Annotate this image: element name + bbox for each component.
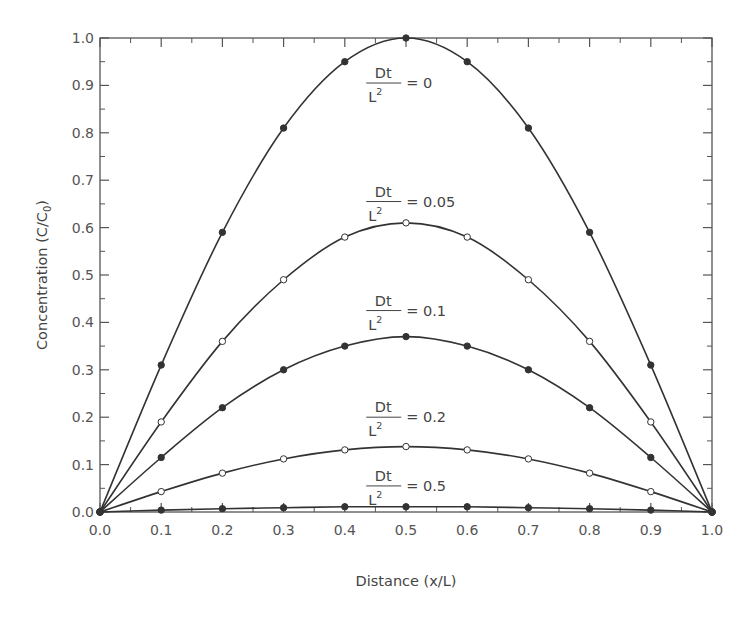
open-circle-marker	[280, 277, 286, 283]
filled-circle-marker	[342, 504, 348, 510]
x-tick-label: 0.3	[272, 522, 294, 538]
open-circle-marker	[342, 234, 348, 240]
filled-circle-marker	[525, 367, 531, 373]
y-tick-label: 0.6	[72, 220, 94, 236]
x-tick-label: 0.6	[456, 522, 478, 538]
equation-value: = 0	[406, 75, 432, 91]
filled-circle-marker	[280, 125, 286, 131]
curve-label-2: DtL2= 0.1	[366, 293, 446, 333]
filled-circle-marker	[342, 59, 348, 65]
y-tick-label: 0.7	[72, 172, 94, 188]
filled-circle-marker	[403, 333, 409, 339]
filled-circle-marker	[403, 504, 409, 510]
fraction-numerator: Dt	[375, 399, 392, 415]
fraction-denominator: L2	[368, 205, 382, 224]
filled-circle-marker	[403, 35, 409, 41]
y-tick-label: 0.8	[72, 125, 94, 141]
curve-label-1: DtL2= 0.05	[366, 184, 455, 224]
curve-label-3: DtL2= 0.2	[366, 399, 446, 439]
open-circle-marker	[219, 338, 225, 344]
equation-value: = 0.5	[406, 478, 446, 494]
filled-circle-marker	[219, 405, 225, 411]
fraction-numerator: Dt	[375, 65, 392, 81]
y-tick-label: 0.2	[72, 409, 94, 425]
filled-circle-marker	[525, 505, 531, 511]
fraction-numerator: Dt	[375, 293, 392, 309]
x-tick-label: 0.7	[517, 522, 539, 538]
series-line	[100, 223, 712, 512]
equation-value: = 0.05	[406, 194, 455, 210]
fraction-numerator: Dt	[375, 468, 392, 484]
y-tick-label: 0.3	[72, 362, 94, 378]
equation-value: = 0.2	[406, 409, 446, 425]
open-circle-marker	[464, 447, 470, 453]
fraction-denominator: L2	[368, 86, 382, 105]
open-circle-marker	[525, 277, 531, 283]
plot-frame	[100, 38, 712, 512]
series-line	[100, 38, 712, 512]
filled-circle-marker	[219, 505, 225, 511]
open-circle-marker	[648, 488, 654, 494]
series-layer	[97, 35, 715, 515]
open-circle-marker	[525, 456, 531, 462]
filled-circle-marker	[648, 454, 654, 460]
filled-circle-marker	[648, 362, 654, 368]
y-axis-title-main: Concentration (C/C	[34, 212, 50, 350]
fraction-denominator: L2	[368, 314, 382, 333]
x-tick-label: 0.5	[395, 522, 417, 538]
y-tick-label: 1.0	[72, 30, 94, 46]
open-circle-marker	[280, 456, 286, 462]
equation-value: = 0.1	[406, 303, 446, 319]
filled-circle-marker	[648, 507, 654, 513]
filled-circle-marker	[464, 504, 470, 510]
open-circle-marker	[586, 338, 592, 344]
filled-circle-marker	[342, 343, 348, 349]
fraction-denominator: L2	[368, 420, 382, 439]
open-circle-marker	[464, 234, 470, 240]
open-circle-marker	[219, 470, 225, 476]
y-tick-label: 0.9	[72, 77, 94, 93]
series-4	[97, 504, 715, 516]
fraction-numerator: Dt	[375, 184, 392, 200]
x-tick-label: 0.4	[334, 522, 356, 538]
x-tick-label: 0.0	[89, 522, 111, 538]
x-tick-label: 1.0	[701, 522, 723, 538]
filled-circle-marker	[586, 505, 592, 511]
x-tick-label: 0.8	[578, 522, 600, 538]
open-circle-marker	[342, 447, 348, 453]
y-axis-title-close: )	[34, 200, 50, 206]
y-tick-label: 0.5	[72, 267, 94, 283]
filled-circle-marker	[158, 362, 164, 368]
x-tick-label: 0.2	[211, 522, 233, 538]
filled-circle-marker	[525, 125, 531, 131]
filled-circle-marker	[280, 505, 286, 511]
plot-border	[100, 38, 712, 512]
open-circle-marker	[403, 220, 409, 226]
filled-circle-marker	[464, 59, 470, 65]
x-tick-label: 0.1	[150, 522, 172, 538]
filled-circle-marker	[586, 405, 592, 411]
concentration-profile-chart: 0.00.10.20.30.40.50.60.70.80.91.0 0.00.1…	[0, 0, 753, 636]
curve-label-0: DtL2= 0	[366, 65, 432, 105]
x-axis-ticks: 0.00.10.20.30.40.50.60.70.80.91.0	[89, 38, 723, 538]
series-1	[97, 220, 715, 516]
filled-circle-marker	[158, 507, 164, 513]
open-circle-marker	[158, 419, 164, 425]
open-circle-marker	[648, 419, 654, 425]
filled-circle-marker	[280, 367, 286, 373]
filled-circle-marker	[219, 229, 225, 235]
y-tick-label: 0.1	[72, 457, 94, 473]
y-tick-label: 0.4	[72, 314, 94, 330]
open-circle-marker	[403, 443, 409, 449]
curve-label-4: DtL2= 0.5	[366, 468, 446, 508]
open-circle-marker	[586, 470, 592, 476]
filled-circle-marker	[586, 229, 592, 235]
y-tick-label: 0.0	[72, 504, 94, 520]
filled-circle-marker	[97, 509, 103, 515]
open-circle-marker	[158, 488, 164, 494]
filled-circle-marker	[158, 454, 164, 460]
fraction-denominator: L2	[368, 489, 382, 508]
annotations-layer: DtL2= 0DtL2= 0.05DtL2= 0.1DtL2= 0.2DtL2=…	[366, 65, 455, 508]
x-axis-title: Distance (x/L)	[356, 573, 457, 589]
filled-circle-marker	[709, 509, 715, 515]
